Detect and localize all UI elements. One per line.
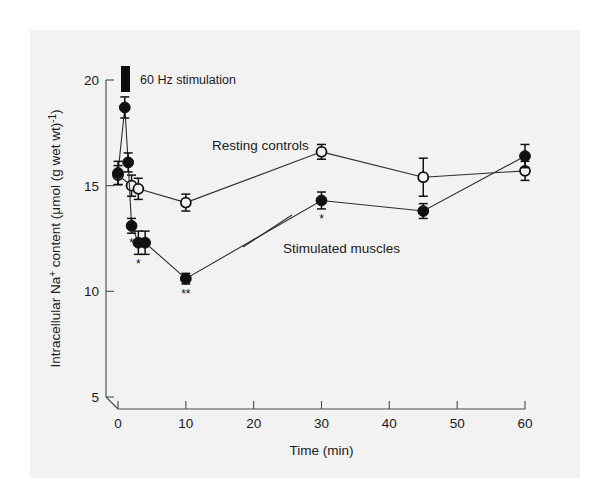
data-point-resting-controls-45 (418, 172, 428, 182)
x-tick-label-60: 60 (517, 416, 532, 431)
x-axis-title: Time (min) (290, 443, 354, 458)
chart-plot-area: 51015200102030405060Time (min)Intracellu… (0, 0, 608, 499)
x-tick-label-20: 20 (246, 416, 261, 431)
data-point-resting-controls-3 (133, 184, 143, 194)
series-stimulated-muscles: ***** (113, 97, 531, 301)
data-point-stimulated-muscles-1.5 (123, 157, 134, 168)
data-point-stimulated-muscles-4 (140, 237, 151, 248)
stimulation-legend-label: 60 Hz stimulation (140, 73, 236, 87)
y-axis-title: Intracellular Na+ content (μmol (g wet w… (47, 109, 64, 367)
stimulated-muscles-annotation: Stimulated muscles (283, 241, 400, 256)
axis-corner-connector (106, 397, 118, 409)
stimulation-bar-icon (121, 66, 130, 92)
axes-group: 51015200102030405060Time (min)Intracellu… (47, 73, 533, 458)
y-tick-label-10: 10 (84, 284, 99, 299)
y-tick-label-15: 15 (84, 179, 99, 194)
data-point-stimulated-muscles-30 (316, 195, 327, 206)
x-tick-label-40: 40 (382, 416, 397, 431)
significance-marker-2: * (129, 236, 134, 250)
data-point-stimulated-muscles-0 (113, 168, 124, 179)
y-tick-label-20: 20 (84, 73, 99, 88)
data-point-resting-controls-10 (181, 198, 191, 208)
x-tick-label-30: 30 (314, 416, 329, 431)
data-point-resting-controls-30 (317, 147, 327, 157)
significance-marker-30: * (319, 212, 324, 226)
x-tick-label-0: 0 (114, 416, 122, 431)
data-point-stimulated-muscles-45 (418, 206, 429, 217)
resting-controls-annotation: Resting controls (212, 138, 309, 153)
data-point-stimulated-muscles-10 (180, 273, 191, 284)
x-tick-label-10: 10 (178, 416, 193, 431)
figure-root: 51015200102030405060Time (min)Intracellu… (0, 0, 608, 499)
data-point-stimulated-muscles-2 (126, 220, 137, 231)
significance-marker-3: * (136, 257, 141, 271)
x-tick-label-50: 50 (450, 416, 465, 431)
data-point-stimulated-muscles-60 (520, 151, 531, 162)
y-tick-label-5: 5 (91, 390, 99, 405)
significance-marker-10: ** (181, 287, 191, 301)
data-point-stimulated-muscles-1 (119, 102, 130, 113)
series-group: ***** (113, 97, 531, 301)
